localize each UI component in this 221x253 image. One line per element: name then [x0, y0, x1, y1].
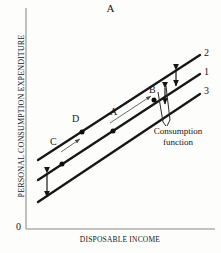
- curve-label-1: 1: [204, 67, 209, 77]
- arrow-c-to-d: [61, 139, 80, 152]
- consumption-function-figure: A PERSONAL CONSUMPTION EXPENDITURE DISPO…: [0, 0, 221, 253]
- curve-label-3: 3: [204, 86, 209, 96]
- axis-lines: [26, 8, 215, 229]
- consumption-function-caption-line2: function: [139, 137, 217, 148]
- consumption-function-caption: Consumption function: [139, 126, 217, 148]
- y-axis-label: PERSONAL CONSUMPTION EXPENDITURE: [18, 21, 26, 211]
- point-label-a: A: [110, 107, 117, 117]
- point-C-marker: [60, 162, 65, 167]
- point-B-marker: [152, 98, 157, 103]
- point-label-d: D: [72, 114, 79, 124]
- point-label-c: C: [50, 137, 57, 147]
- pointer-right-edge: [166, 86, 170, 126]
- point-A-marker: [111, 129, 116, 134]
- curve-label-2: 2: [204, 48, 209, 58]
- origin-label: 0: [16, 222, 21, 232]
- figure-title-letter: A: [0, 3, 221, 14]
- consumption-function-caption-line1: Consumption: [139, 126, 217, 137]
- point-D-marker: [80, 130, 85, 135]
- point-label-b: B: [149, 85, 156, 95]
- consumption-line-3: [38, 94, 200, 202]
- x-axis-label: DISPOSABLE INCOME: [25, 236, 215, 244]
